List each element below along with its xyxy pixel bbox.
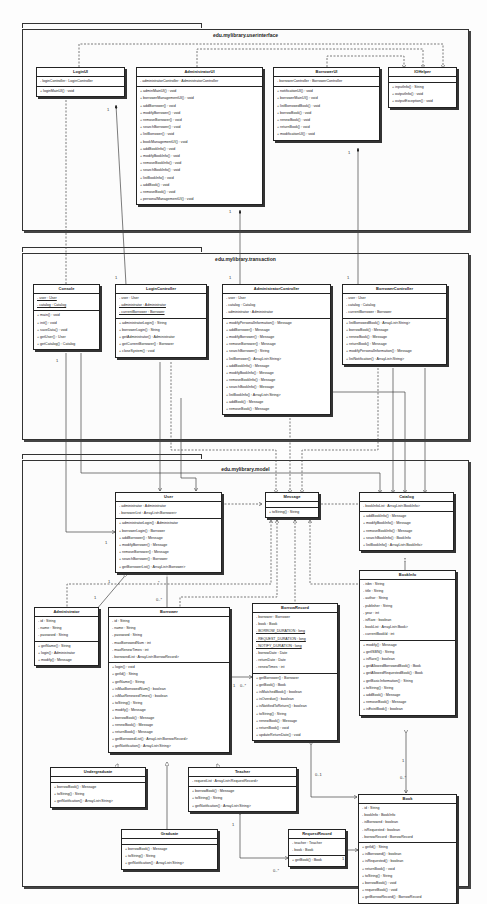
operation: + modifyBorrower() : void — [140, 110, 259, 117]
operations-section: + main() : void+ init() : void+ saveData… — [34, 311, 99, 349]
class-borrowerui[interactable]: BorrowerUI- borrowerController : Borrowe… — [273, 67, 380, 141]
class-teacher[interactable]: Teacher- requestList : ArrayList<Request… — [188, 767, 297, 812]
class-loginui[interactable]: LoginUI- loginController : LoginControll… — [36, 67, 125, 97]
package-title: edu.mylibrary.transaction — [23, 256, 468, 262]
operation: + getName() : String — [38, 643, 95, 650]
attribute: - currentBorrower : Borrower — [346, 309, 443, 316]
class-name: Message — [266, 493, 318, 502]
package-tab-transaction — [22, 247, 202, 252]
class-administratorui[interactable]: AdministratorUI- administratorController… — [136, 67, 263, 205]
operation: + toString() : String — [362, 873, 453, 880]
class-name: AdministratorUI — [137, 68, 262, 77]
operation: + isMaxRenewedTimes() : boolean — [112, 693, 226, 700]
operation: + toString() : String — [125, 853, 214, 860]
attribute: - book : Book — [256, 621, 334, 628]
class-logincontroller[interactable]: LoginController- user : User- administra… — [115, 284, 207, 358]
class-name: Console — [34, 285, 99, 294]
operation: + modifyPersonalInformation() : Message — [346, 348, 443, 355]
operation: + removeBorrower() : void — [140, 117, 259, 124]
class-borrowrecord[interactable]: BorrowRecord- borrower : Borrower- book … — [252, 603, 338, 741]
attributes-section: - teacher : Teacher- book : Book — [289, 839, 345, 856]
operation: + borrowBook() : void — [277, 110, 376, 117]
operation: + borrowerLogin() : Borrower — [119, 528, 218, 535]
package-title: edu.mylibrary.userinterface — [23, 32, 468, 38]
operation: + modifyBookInfo() : Message — [226, 370, 327, 377]
attribute: - bookList : ArrayList<Book> — [363, 624, 452, 631]
attribute: - id : String — [112, 618, 226, 625]
operation: + isOverdue() : boolean — [256, 696, 334, 703]
attribute: - borrower : Borrower — [256, 614, 334, 621]
attribute: - bookInfo : BookInfo — [362, 812, 453, 819]
attribute: - administrator : Administrator — [119, 302, 203, 309]
class-administrator[interactable]: Administrator- id : String- name : Strin… — [34, 607, 99, 666]
attribute: - catalog : Catalog — [37, 302, 96, 309]
operation: + removeBookInfo() : Message — [363, 528, 450, 535]
class-name: BorrowerUI — [274, 68, 379, 77]
operation: + toString() : String — [363, 685, 452, 692]
class-name: IOHelper — [389, 68, 456, 77]
class-catalog[interactable]: Catalog- bookInfoList : ArrayList<BookIn… — [359, 492, 454, 551]
operation: + getNotification() : ArrayList<String> — [54, 798, 142, 805]
operation: + searchBorrower() : String — [226, 348, 327, 355]
class-name: Undergraduate — [51, 768, 145, 777]
attributes-section: - id : String- bookInfo : BookInfo- isBo… — [359, 804, 456, 843]
operation: + borrowBook() : Message — [192, 788, 293, 795]
operation: + closeSystem() : void — [119, 348, 203, 355]
operation: + isExistBook() : boolean — [363, 706, 452, 713]
attributes-section: - requestList : ArrayList<RequestRecord> — [189, 777, 296, 787]
class-iohelper[interactable]: IOHelper+ inputInfo() : String+ outputIn… — [388, 67, 457, 108]
operations-section: + inputInfo() : String+ outputInfo() : v… — [389, 83, 456, 107]
operation: + getAllowedRequestedBook() : Book — [363, 670, 452, 677]
operation: + getBorrowerList() : ArrayList<Borrower… — [119, 564, 218, 571]
class-name: Administrator — [35, 608, 98, 617]
attributes-section: - borrower : Borrower- book : Book- BORR… — [253, 613, 337, 674]
operation: + adminMainUI() : void — [140, 88, 259, 95]
class-graduate[interactable]: Graduate+ borrowBook() : Message+ toStri… — [121, 829, 218, 870]
attribute: - user : User — [346, 295, 443, 302]
operation: + getISBN() : String — [363, 649, 452, 656]
operation: + getCurrentBorrower() : Borrower — [119, 341, 203, 348]
operation: + getAllowedBorrowedBook() : Book — [363, 663, 452, 670]
operations-section: + getId() : String+ isBorrowed() : boole… — [359, 843, 456, 903]
multiplicity: 1 — [229, 275, 231, 280]
operation: + toString() : String — [54, 791, 142, 798]
attribute: - REQUEST_DURATION : long — [256, 636, 334, 643]
class-administratorcontroller[interactable]: AdministratorController- user : User- ca… — [222, 284, 331, 415]
operation: + main() : void — [37, 312, 96, 319]
operation: + returnBook() : Message — [112, 729, 226, 736]
class-message[interactable]: Message+ toString() : String — [265, 492, 319, 518]
attribute: - requestList : ArrayList<RequestRecord> — [192, 778, 293, 785]
multiplicity: 1 — [94, 595, 96, 600]
operation: + isRequested() : boolean — [362, 858, 453, 865]
class-borrowercontroller[interactable]: BorrowerController- user : User- catalog… — [342, 284, 447, 365]
class-undergraduate[interactable]: Undergraduate+ borrowBook() : Message+ t… — [50, 767, 146, 808]
operation: + getBook() : Book — [256, 682, 334, 689]
operation: + listBorrowedBook() : ArrayList<String> — [346, 320, 443, 327]
operation: + borrowerMainUI() : void — [277, 95, 376, 102]
attributes-section: - loginController : LoginController — [37, 77, 124, 87]
package-tab-model — [22, 454, 202, 459]
operations-section: + administratorLogin() : String+ borrowe… — [116, 319, 206, 357]
attribute: - teacher : Teacher — [292, 840, 342, 847]
operations-section: + administratorLogin() : Administrator+ … — [116, 519, 221, 571]
attributes-section: - administrator : Administrator- borrowe… — [116, 502, 221, 519]
class-user[interactable]: User- administrator : Administrator- bor… — [115, 492, 222, 573]
operation: + getNotification() : ArrayList<String> — [192, 803, 293, 810]
class-bookinfo[interactable]: BookInfo- isbn : String- title : String-… — [359, 570, 456, 716]
operation: + isMatchedBook() : boolean — [256, 689, 334, 696]
class-requestrecord[interactable]: RequestRecord- teacher : Teacher- book :… — [288, 829, 346, 867]
operation: + renewBook() : Message — [346, 334, 443, 341]
class-console[interactable]: Console- user : User- catalog : Catalog+… — [33, 284, 100, 350]
operation: + toString() : String — [256, 711, 334, 718]
attribute: - borrowedList : ArrayList<BorrowRecord> — [112, 654, 226, 661]
operation: + toString() : String — [269, 509, 315, 516]
attributes-section: - administratorController : Administrato… — [137, 77, 262, 87]
package-tab-userinterface — [22, 23, 202, 28]
operations-section: + login() : void+ getId() : String+ getN… — [109, 663, 229, 751]
class-book[interactable]: Book- id : String- bookInfo : BookInfo- … — [358, 794, 457, 904]
operation: + listBookInfo() : void — [140, 175, 259, 182]
class-borrower[interactable]: Borrower- id : String- name : String- pa… — [108, 607, 230, 753]
operation: + outputInfo() : void — [392, 91, 453, 98]
operation: + getBorrowedList() : ArrayList<BorrowRe… — [112, 736, 226, 743]
operation: + borrowerLogin() : String — [119, 327, 203, 334]
